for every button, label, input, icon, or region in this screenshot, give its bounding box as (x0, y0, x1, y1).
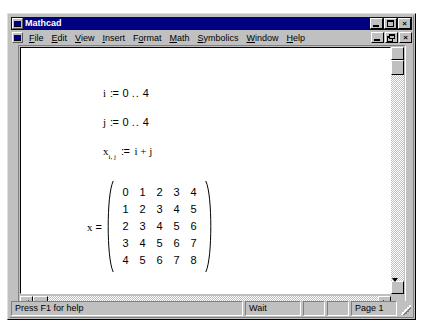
matrix-cell: 4 (185, 184, 202, 201)
vertical-scroll-track[interactable] (391, 60, 404, 281)
mathcad-icon[interactable] (12, 18, 23, 29)
matrix-left-bracket (107, 180, 114, 273)
matrix-cell: 1 (117, 201, 134, 218)
minimize-button[interactable] (370, 18, 383, 29)
matrix-cell: 7 (168, 252, 185, 269)
range-end-i: 4 (143, 87, 149, 99)
variable-i: i (103, 87, 106, 99)
matrix-cell: 1 (134, 184, 151, 201)
menu-item-view[interactable]: View (71, 32, 98, 44)
doc-restore-button[interactable] (385, 32, 398, 43)
expression-i-plus-j: i + j (134, 145, 152, 157)
menu-item-math[interactable]: Math (165, 32, 193, 44)
matrix-label: x (87, 221, 93, 233)
matrix-cell: 6 (168, 235, 185, 252)
range-start-j: 0 (123, 116, 129, 128)
menu-item-file[interactable]: FFileile (25, 32, 48, 44)
document-frame: i:=0..4 j:=0..4 xi, j:=i + j x = (18, 45, 406, 311)
matrix-equals-operator: = (96, 221, 102, 233)
matrix-cell: 8 (185, 252, 202, 269)
matrix-cell: 0 (117, 184, 134, 201)
status-bar: Press F1 for help Wait Page 1 (11, 301, 412, 316)
subscript-ij: i, j (109, 153, 116, 161)
scroll-up-button[interactable] (391, 47, 404, 60)
document-window-controls: × (371, 32, 412, 43)
menu-items: FFileile Edit View Insert Format Math Sy… (25, 32, 371, 44)
status-aux-panel-2 (327, 301, 349, 316)
range-dots-i: .. (132, 87, 140, 99)
document-icon[interactable] (12, 32, 23, 43)
restore-icon-front (389, 34, 395, 39)
vertical-scroll-thumb[interactable] (391, 60, 404, 75)
minimize-icon (373, 25, 379, 27)
menu-item-insert[interactable]: Insert (98, 32, 129, 44)
variable-j: j (103, 116, 106, 128)
menu-item-format[interactable]: Format (129, 32, 166, 44)
resize-grip[interactable] (399, 301, 412, 316)
menu-item-help[interactable]: Help (283, 32, 310, 44)
title-bar[interactable]: Mathcad × (11, 17, 412, 30)
matrix-cell: 3 (117, 235, 134, 252)
worksheet-page[interactable]: i:=0..4 j:=0..4 xi, j:=i + j x = (20, 47, 391, 294)
matrix-cell: 4 (168, 201, 185, 218)
matrix-cell: 6 (151, 252, 168, 269)
maximize-icon (387, 20, 394, 27)
matrix-cell: 5 (168, 218, 185, 235)
assign-operator-i: := (110, 87, 118, 99)
math-region-matrix-definition[interactable]: xi, j:=i + j (103, 141, 152, 161)
doc-close-button[interactable]: × (399, 32, 412, 43)
matrix-cell: 2 (117, 218, 134, 235)
vertical-scrollbar[interactable] (391, 47, 404, 294)
matrix-cell: 4 (134, 235, 151, 252)
status-page-indicator: Page 1 (351, 301, 397, 316)
desktop-background: Mathcad × FFileile Edit View Insert Form… (0, 0, 423, 332)
matrix-grid: 0 1 2 3 4 1 2 3 4 5 2 3 4 5 6 (114, 182, 205, 271)
window-title: Mathcad (25, 18, 370, 29)
matrix-right-bracket (205, 180, 212, 273)
menu-item-edit[interactable]: Edit (48, 32, 72, 44)
status-help-text: Press F1 for help (11, 301, 243, 316)
menu-item-symbolics[interactable]: Symbolics (193, 32, 242, 44)
status-aux-panel-1 (303, 301, 325, 316)
matrix-cell: 7 (185, 235, 202, 252)
doc-minimize-button[interactable] (371, 32, 384, 43)
math-region-range-j[interactable]: j:=0..4 (103, 112, 149, 130)
arrow-down-icon (392, 278, 398, 299)
matrix-cell: 3 (134, 218, 151, 235)
minimize-icon (374, 39, 380, 41)
status-mode-indicator: Wait (245, 301, 301, 316)
menu-item-window[interactable]: Window (243, 32, 283, 44)
scroll-down-button[interactable] (391, 281, 404, 294)
matrix-cell: 6 (185, 218, 202, 235)
math-region-matrix-output[interactable]: x = 0 1 2 3 4 1 2 (87, 180, 212, 273)
matrix-cell: 4 (117, 252, 134, 269)
close-button[interactable]: × (398, 18, 411, 29)
assign-operator-x: := (121, 145, 129, 157)
matrix-cell: 5 (134, 252, 151, 269)
matrix-cell: 3 (168, 184, 185, 201)
range-start-i: 0 (123, 87, 129, 99)
range-end-j: 4 (143, 116, 149, 128)
assign-operator-j: := (110, 116, 118, 128)
range-dots-j: .. (132, 116, 140, 128)
menu-bar: FFileile Edit View Insert Format Math Sy… (11, 31, 412, 44)
mathcad-application-window: Mathcad × FFileile Edit View Insert Form… (7, 13, 416, 320)
matrix-cell: 2 (134, 201, 151, 218)
matrix-cell: 2 (151, 184, 168, 201)
close-icon: × (400, 33, 411, 42)
maximize-button[interactable] (384, 18, 397, 29)
math-region-range-i[interactable]: i:=0..4 (103, 83, 149, 101)
window-controls: × (370, 18, 411, 29)
matrix-cell: 5 (151, 235, 168, 252)
close-icon: × (399, 19, 410, 28)
matrix-cell: 3 (151, 201, 168, 218)
matrix-cell: 4 (151, 218, 168, 235)
matrix-cell: 5 (185, 201, 202, 218)
